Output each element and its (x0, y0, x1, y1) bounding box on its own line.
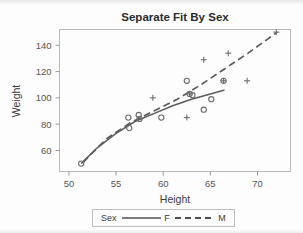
x-tick-label: 70 (252, 178, 263, 189)
x-axis-ticks: 5055606570 (64, 172, 263, 189)
data-point-f (184, 78, 189, 83)
data-point-f (159, 115, 164, 120)
chart-title: Separate Fit By Sex (121, 11, 229, 23)
y-axis-label: Weight (10, 85, 22, 118)
fit-line-f (81, 90, 224, 164)
y-tick-label: 60 (41, 145, 52, 156)
data-point-f (127, 126, 132, 131)
data-point-f (201, 107, 206, 112)
legend-label-m: M (218, 213, 226, 223)
data-point-f (126, 115, 131, 120)
fit-line-m (83, 32, 277, 162)
y-tick-label: 120 (36, 66, 52, 77)
x-tick-label: 60 (158, 178, 169, 189)
y-tick-label: 80 (41, 119, 52, 130)
x-tick-label: 65 (205, 178, 216, 189)
x-tick-label: 55 (111, 178, 122, 189)
legend-label-f: F (164, 213, 170, 223)
chart-page: Separate Fit By Sex 6080100120140 505560… (0, 0, 303, 233)
x-axis-label: Height (160, 193, 190, 205)
data-point-f (209, 97, 214, 102)
legend-title: Sex (101, 213, 117, 223)
legend: Sex F M (93, 210, 235, 227)
x-tick-label: 50 (64, 178, 75, 189)
y-tick-label: 140 (36, 40, 52, 51)
y-tick-label: 100 (36, 92, 52, 103)
scatter-plot: Separate Fit By Sex 6080100120140 505560… (0, 0, 303, 233)
y-axis-ticks: 6080100120140 (36, 40, 60, 156)
fit-lines-group (81, 32, 277, 163)
